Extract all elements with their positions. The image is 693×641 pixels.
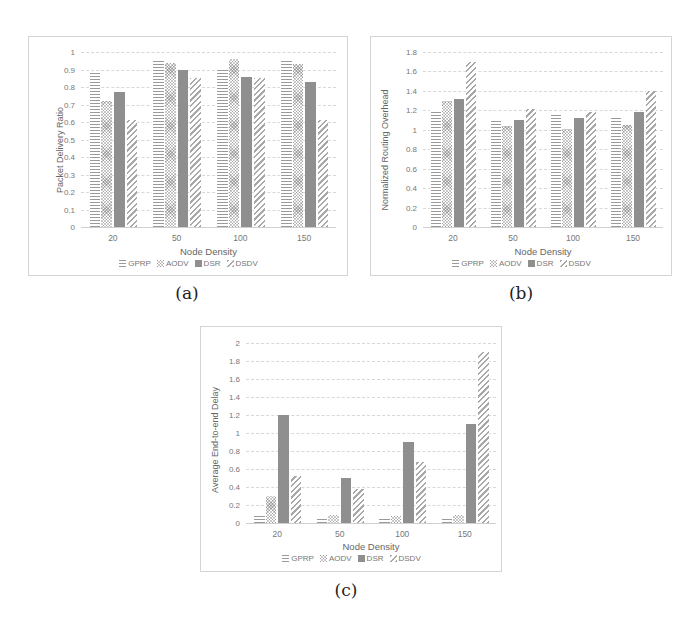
y-tick-label: 0.8: [216, 447, 240, 456]
y-tick-label: 1: [51, 48, 75, 57]
y-tick-label: 0.8: [51, 83, 75, 92]
plot-area: 00.10.20.30.40.50.60.70.80.912050100150: [81, 52, 336, 227]
gridline: [246, 397, 496, 398]
x-tick-label: 100: [220, 233, 260, 243]
x-tick-label: 150: [284, 233, 324, 243]
bar-dsr-100: [403, 442, 413, 523]
bar-dsdv-150: [478, 352, 488, 523]
x-tick-label: 20: [257, 529, 297, 539]
gridline: [423, 91, 663, 92]
legend-item-gprp: GPRP: [118, 259, 151, 268]
bar-gprp-150: [610, 118, 621, 227]
bar-aodv-150: [453, 515, 463, 523]
bar-aodv-100: [391, 516, 401, 523]
gridline: [423, 52, 663, 53]
legend-swatch-icon: [195, 260, 202, 267]
legend-label: GPRP: [461, 259, 484, 268]
gridline: [81, 52, 336, 53]
y-tick-label: 1.8: [393, 48, 417, 57]
legend-label: DSR: [367, 554, 384, 563]
legend-item-dsr: DSR: [358, 554, 384, 563]
gridline: [246, 343, 496, 344]
x-tick-label: 50: [493, 233, 533, 243]
bar-gprp-100: [550, 115, 561, 227]
legend-label: DSR: [537, 259, 554, 268]
legend-swatch-icon: [320, 555, 327, 562]
bar-dsdv-50: [190, 78, 201, 227]
bar-dsr-100: [574, 118, 584, 227]
legend-item-aodv: AODV: [157, 259, 189, 268]
legend-swatch-icon: [390, 555, 397, 562]
bar-gprp-50: [490, 119, 501, 227]
legend-swatch-icon: [528, 260, 535, 267]
bar-dsr-20: [454, 99, 464, 227]
x-tick-label: 20: [93, 233, 133, 243]
x-tick-label: 50: [320, 529, 360, 539]
bar-dsr-150: [634, 112, 644, 227]
y-tick-label: 0.9: [51, 65, 75, 74]
x-axis-label: Node Density: [423, 246, 663, 257]
legend-item-aodv: AODV: [490, 259, 522, 268]
y-tick-label: 0.6: [216, 465, 240, 474]
x-tick-label: 150: [445, 529, 485, 539]
y-tick-label: 0.6: [393, 164, 417, 173]
y-tick-label: 1.2: [393, 106, 417, 115]
bar-dsr-20: [278, 415, 288, 523]
bar-dsr-20: [114, 92, 125, 227]
x-tick-label: 100: [553, 233, 593, 243]
y-tick-label: 0: [51, 223, 75, 232]
legend-swatch-icon: [358, 555, 365, 562]
x-axis-label: Node Density: [246, 541, 496, 552]
y-tick-label: 0.2: [393, 203, 417, 212]
legend-item-gprp: GPRP: [451, 259, 484, 268]
bar-gprp-150: [441, 517, 452, 523]
y-tick-label: 0.5: [51, 135, 75, 144]
y-tick-label: 0.6: [51, 118, 75, 127]
bar-gprp-100: [216, 68, 228, 227]
legend-item-dsdv: DSDV: [227, 259, 258, 268]
gridline: [423, 227, 663, 228]
bar-dsdv-20: [466, 62, 476, 227]
legend-item-aodv: AODV: [320, 554, 352, 563]
bar-dsdv-100: [586, 112, 596, 227]
y-tick-label: 1.6: [216, 375, 240, 384]
bar-gprp-20: [89, 71, 101, 227]
bar-dsr-150: [466, 424, 476, 523]
legend-label: DSR: [204, 259, 221, 268]
bar-dsdv-100: [416, 462, 426, 523]
gridline: [423, 71, 663, 72]
legend-item-dsr: DSR: [195, 259, 221, 268]
y-tick-label: 2: [216, 339, 240, 348]
y-tick-label: 0.4: [51, 153, 75, 162]
bar-gprp-20: [430, 110, 441, 227]
gridline: [246, 523, 496, 524]
x-tick-label: 50: [157, 233, 197, 243]
bar-dsr-50: [178, 70, 189, 228]
x-tick-label: 100: [382, 529, 422, 539]
caption-a: (a): [157, 283, 217, 303]
bar-gprp-50: [152, 61, 164, 227]
y-tick-label: 1.2: [216, 411, 240, 420]
plot-area: 00.20.40.60.811.21.41.61.82050100150: [423, 52, 663, 227]
bar-dsdv-150: [318, 120, 329, 227]
bar-aodv-20: [442, 101, 452, 227]
caption-b: (b): [491, 283, 551, 303]
x-tick-label: 20: [433, 233, 473, 243]
y-tick-label: 0.4: [216, 483, 240, 492]
legend-label: GPRP: [128, 259, 151, 268]
bar-gprp-50: [316, 517, 327, 523]
legend-label: DSDV: [236, 259, 258, 268]
bar-dsdv-100: [254, 78, 265, 227]
bar-aodv-50: [165, 63, 176, 228]
y-tick-label: 1: [216, 429, 240, 438]
gridline: [81, 227, 336, 228]
bar-aodv-50: [502, 126, 512, 227]
y-tick-label: 1.4: [393, 86, 417, 95]
y-tick-label: 0: [216, 519, 240, 528]
y-tick-label: 0: [393, 223, 417, 232]
bar-dsdv-20: [291, 476, 301, 523]
bar-dsdv-20: [127, 120, 138, 227]
legend-item-dsdv: DSDV: [390, 554, 421, 563]
bar-gprp-20: [253, 516, 264, 523]
bar-aodv-150: [293, 64, 304, 227]
